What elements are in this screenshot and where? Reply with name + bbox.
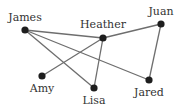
node-label-heather: Heather <box>80 18 127 31</box>
node-label-james: James <box>7 11 42 24</box>
node-lisa <box>90 84 97 91</box>
edge-james-heather <box>25 30 103 38</box>
edge-james-lisa <box>25 30 94 88</box>
node-james <box>21 26 28 33</box>
node-juan <box>157 20 164 27</box>
network-diagram: JamesHeatherJuanAmyLisaJared <box>0 0 182 110</box>
node-heather <box>99 34 106 41</box>
edge-james-jared <box>25 30 149 80</box>
nodes-group <box>21 20 164 91</box>
node-jared <box>145 76 152 83</box>
node-label-lisa: Lisa <box>82 94 105 107</box>
edge-heather-lisa <box>94 38 103 88</box>
node-label-jared: Jared <box>133 86 164 99</box>
edge-juan-jared <box>149 24 161 80</box>
node-amy <box>38 72 45 79</box>
node-label-juan: Juan <box>147 5 173 18</box>
edges-group <box>25 24 161 88</box>
node-label-amy: Amy <box>29 82 55 95</box>
